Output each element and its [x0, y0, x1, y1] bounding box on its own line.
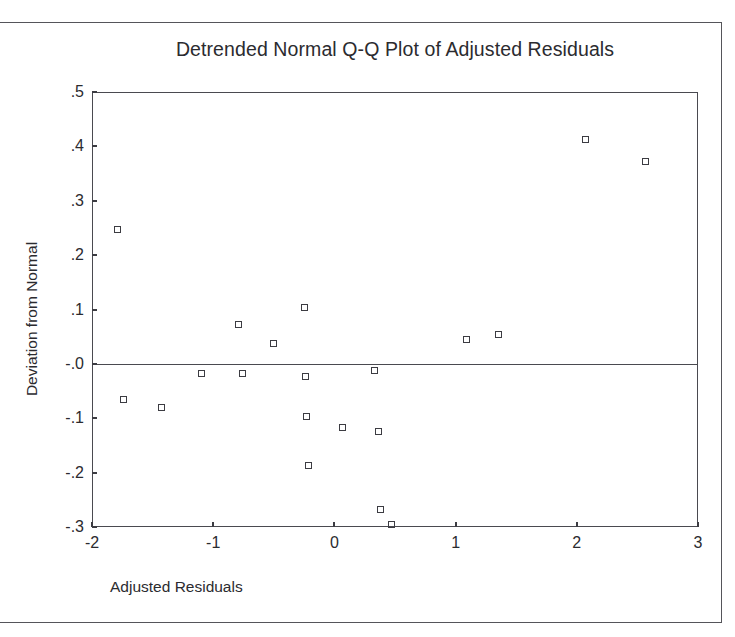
x-tick-label: 2	[572, 534, 581, 552]
x-tick-mark	[333, 522, 335, 527]
data-point	[158, 404, 165, 411]
y-tick-mark	[92, 254, 97, 256]
data-point	[463, 336, 470, 343]
x-axis-label: Adjusted Residuals	[110, 578, 243, 596]
x-tick-label: -2	[85, 534, 99, 552]
y-tick-mark	[92, 91, 97, 93]
data-point	[303, 413, 310, 420]
x-tick-mark	[576, 522, 578, 527]
x-tick-label: 3	[694, 534, 703, 552]
y-tick-label: .2	[0, 246, 84, 264]
data-point	[198, 370, 205, 377]
x-tick-label: 1	[451, 534, 460, 552]
y-tick-mark	[92, 417, 97, 419]
data-point	[114, 226, 121, 233]
data-point	[495, 331, 502, 338]
y-tick-label: -.0	[0, 355, 84, 373]
y-tick-label: -.1	[0, 409, 84, 427]
data-point	[642, 158, 649, 165]
data-point	[235, 321, 242, 328]
data-point	[120, 396, 127, 403]
x-tick-label: -1	[206, 534, 220, 552]
y-tick-label: .3	[0, 192, 84, 210]
y-tick-mark	[92, 363, 97, 365]
data-point	[301, 304, 308, 311]
chart-title: Detrended Normal Q-Q Plot of Adjusted Re…	[92, 38, 698, 61]
y-tick-mark	[92, 145, 97, 147]
data-point	[375, 428, 382, 435]
y-tick-mark	[92, 309, 97, 311]
x-tick-mark	[455, 522, 457, 527]
qq-plot-figure: Detrended Normal Q-Q Plot of Adjusted Re…	[0, 0, 735, 637]
x-tick-mark	[212, 522, 214, 527]
page-canvas: Detrended Normal Q-Q Plot of Adjusted Re…	[0, 0, 735, 637]
y-tick-label: -.2	[0, 464, 84, 482]
data-point	[302, 373, 309, 380]
data-point	[239, 370, 246, 377]
y-tick-label: -.3	[0, 518, 84, 536]
y-tick-label: .1	[0, 301, 84, 319]
y-tick-mark	[92, 200, 97, 202]
data-point	[305, 462, 312, 469]
zero-reference-line	[92, 364, 698, 365]
data-point	[339, 424, 346, 431]
plot-area	[92, 92, 698, 527]
x-tick-mark	[91, 522, 93, 527]
data-point	[371, 367, 378, 374]
data-point	[582, 136, 589, 143]
x-tick-label: 0	[330, 534, 339, 552]
data-point	[377, 506, 384, 513]
y-tick-label: .5	[0, 83, 84, 101]
x-tick-mark	[697, 522, 699, 527]
data-point	[270, 340, 277, 347]
y-tick-label: .4	[0, 137, 84, 155]
data-point	[388, 521, 395, 528]
y-tick-mark	[92, 472, 97, 474]
